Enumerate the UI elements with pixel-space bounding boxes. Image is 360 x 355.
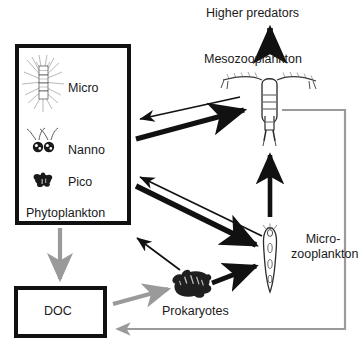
label-prokaryotes: Prokaryotes xyxy=(162,304,229,318)
flow-prokaryotes-to-microzooplankton xyxy=(212,266,256,283)
diagram-vector-layer xyxy=(0,0,360,355)
label-size-class-micro: Micro xyxy=(68,81,99,95)
food-web-diagram: Higher predators Mesozooplankton Micro- … xyxy=(0,0,360,355)
label-microzooplankton: Micro- zooplankton xyxy=(291,232,355,261)
flow-doc-to-prokaryotes xyxy=(113,289,168,304)
flow-phytoplankton-to-microzooplankton xyxy=(136,186,256,245)
label-microzooplankton-line1: Micro- xyxy=(291,232,355,247)
label-size-class-nanno: Nanno xyxy=(68,143,105,157)
flow-mesozooplankton-to-doc xyxy=(117,110,345,329)
flow-phytoplankton-to-mesozooplankton xyxy=(136,110,244,139)
label-microzooplankton-line2: zooplankton xyxy=(291,247,355,262)
phytoplankton-box xyxy=(17,46,129,223)
ciliate-icon xyxy=(263,224,277,293)
flow-prokaryotes-to-phytoplankton xyxy=(137,238,180,270)
label-higher-predators: Higher predators xyxy=(206,6,299,20)
bacteria-cluster-icon xyxy=(171,267,213,301)
flow-microzooplankton-to-phytoplankton xyxy=(140,177,262,236)
label-mesozooplankton: Mesozooplankton xyxy=(204,52,302,66)
label-doc: DOC xyxy=(44,304,72,318)
label-phytoplankton: Phytoplankton xyxy=(26,206,105,220)
label-size-class-pico: Pico xyxy=(68,175,92,189)
